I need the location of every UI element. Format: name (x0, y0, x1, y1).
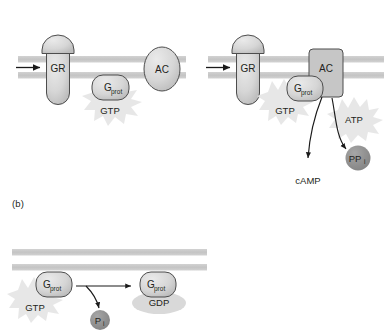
gprotein-right-sublabel: prot (301, 89, 312, 97)
camp-label: cAMP (295, 175, 320, 186)
receptor-gr-left: GR (42, 35, 74, 105)
gtp-label-right: GTP (275, 105, 295, 116)
gprotein-b-right-sublabel: prot (154, 285, 165, 293)
ppi-label: PP (349, 153, 362, 164)
receptor-gr-right-label: GR (241, 63, 256, 74)
diagram-canvas: GR G prot GTP AC (0, 0, 384, 333)
receptor-gr-left-label: GR (51, 63, 66, 74)
phosphate-release-arrow (86, 286, 99, 308)
ppi-sublabel: i (364, 158, 365, 165)
atp-label: ATP (345, 114, 363, 125)
panel-a-right: GR AC G prot GTP ATP (206, 35, 384, 186)
gprotein-right: G prot GTP (257, 76, 323, 125)
gprotein-b-right: G prot GDP (132, 272, 186, 314)
gprotein-b-left: G prot GTP (7, 272, 72, 323)
effector-ac-left: AC (144, 47, 180, 91)
phosphate-sublabel: i (103, 320, 104, 327)
phosphate-label: P (95, 315, 101, 326)
membrane-bilayer-right (208, 56, 384, 79)
gprotein-left: G prot GTP (82, 75, 142, 126)
gtp-label-panel-b: GTP (25, 302, 45, 313)
panel-b-label: (b) (12, 198, 24, 209)
effector-ac-right-label: AC (319, 63, 333, 74)
panel-b: G prot GTP P i G prot GDP (7, 249, 207, 330)
membrane-bilayer-panel-b (12, 249, 207, 271)
gprotein-left-sublabel: prot (111, 88, 122, 96)
phosphate-molecule: P i (90, 310, 110, 330)
gtp-label-left: GTP (100, 105, 120, 116)
camp-production-arrow (308, 97, 322, 158)
signalling-figure: (b) (0, 0, 384, 333)
panel-a-left: GR G prot GTP AC (16, 35, 186, 126)
effector-ac-left-label: AC (155, 64, 169, 75)
gdp-label: GDP (149, 297, 170, 308)
ppi-molecule: PP i (346, 146, 371, 171)
receptor-gr-right: GR (232, 35, 264, 105)
gprotein-b-left-sublabel: prot (50, 285, 61, 293)
